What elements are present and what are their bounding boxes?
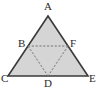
vertex-label-e: E xyxy=(89,73,96,84)
vertex-label-c: C xyxy=(1,73,8,84)
vertex-label-d: D xyxy=(44,78,52,89)
vertex-label-a: A xyxy=(44,1,52,12)
vertex-label-b: B xyxy=(18,38,25,49)
geometry-figure: A B F C D E xyxy=(0,0,98,90)
vertex-label-f: F xyxy=(70,38,76,49)
